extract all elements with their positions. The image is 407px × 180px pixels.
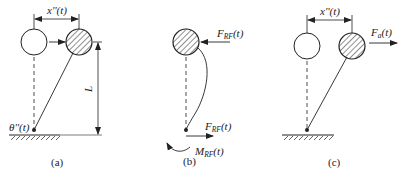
base-point <box>184 128 188 132</box>
base-moment-label: MRF(t) <box>194 145 224 159</box>
panel-a: x''(t) θ''(t) L (a) <box>9 4 102 169</box>
caption-c: (c) <box>328 156 341 169</box>
displacement-label: x''(t) <box>46 4 67 17</box>
flexible-beam-curve <box>186 48 207 130</box>
rigid-rod <box>34 53 73 130</box>
mass-original-position <box>21 29 47 55</box>
caption-b: (b) <box>183 155 196 168</box>
mass-original-position <box>294 33 320 59</box>
rigid-rod <box>307 57 347 130</box>
mass-displaced <box>66 29 92 55</box>
ground-hatch <box>284 136 333 140</box>
displacement-label: x''(t) <box>319 5 340 18</box>
rotation-label: θ''(t) <box>9 121 30 134</box>
base-force-label: FRF(t) <box>204 120 232 134</box>
pivot-point <box>32 128 36 132</box>
mass-displaced <box>339 33 365 59</box>
applied-force-label: Fa(t) <box>370 26 392 40</box>
panel-b: FRF(t) FRF(t) MRF(t) (b) <box>167 27 244 168</box>
ground-hatch <box>11 136 60 140</box>
top-force-label: FRF(t) <box>216 27 244 41</box>
panel-c: x''(t) Fa(t) (c) <box>282 5 397 169</box>
pendulum-diagram: x''(t) θ''(t) L (a) FRF( <box>0 0 407 180</box>
caption-a: (a) <box>51 156 64 169</box>
base-moment-arrow <box>167 143 190 151</box>
length-label: L <box>82 86 94 93</box>
pivot-point <box>305 128 309 132</box>
mass-hatched <box>173 29 199 55</box>
